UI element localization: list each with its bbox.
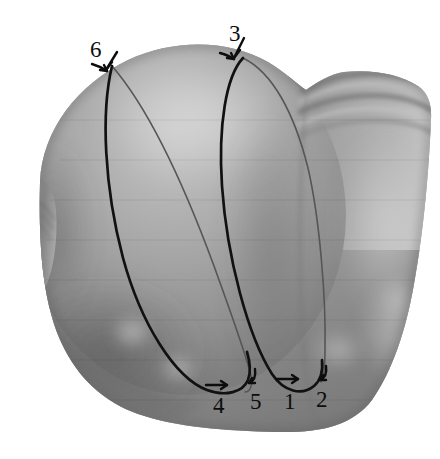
- label-5: 5: [250, 390, 262, 413]
- bottom-highlight-a: [110, 314, 154, 350]
- label-3: 3: [229, 22, 241, 45]
- label-1: 1: [284, 390, 296, 413]
- bottom-highlight-c: [312, 330, 364, 370]
- label-4: 4: [213, 394, 225, 417]
- anatomical-illustration: [0, 0, 440, 459]
- label-6: 6: [90, 38, 102, 61]
- label-2: 2: [316, 388, 328, 411]
- figure-canvas: 6 3 4 5 1 2: [0, 0, 440, 459]
